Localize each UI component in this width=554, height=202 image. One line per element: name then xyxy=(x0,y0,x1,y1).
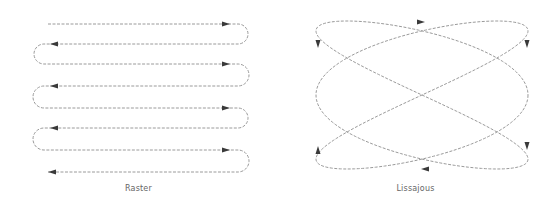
arrow-right-icon xyxy=(222,106,230,111)
raster-caption: Raster xyxy=(0,184,277,193)
arrow-right-icon xyxy=(222,62,230,67)
arrow-left-icon xyxy=(50,42,58,47)
arrow-down-icon xyxy=(525,142,530,150)
arrow-right-icon xyxy=(222,22,230,27)
raster-panel: Raster xyxy=(0,0,277,202)
arrow-down-icon xyxy=(316,40,321,48)
arrow-right-icon xyxy=(417,20,425,25)
lissajous-scan-diagram xyxy=(277,0,554,202)
arrow-left-icon xyxy=(50,84,58,89)
arrow-down-icon xyxy=(525,40,530,48)
raster-scan-diagram xyxy=(0,0,277,202)
raster-scan-path xyxy=(33,24,249,172)
arrow-left-icon xyxy=(50,126,58,131)
lissajous-panel: Lissajous xyxy=(277,0,554,202)
arrow-left-icon xyxy=(48,170,56,175)
arrow-up-icon xyxy=(316,146,321,154)
lissajous-scan-path xyxy=(316,21,528,169)
arrow-left-icon xyxy=(421,167,429,172)
arrow-right-icon xyxy=(222,148,230,153)
lissajous-caption: Lissajous xyxy=(277,184,554,193)
